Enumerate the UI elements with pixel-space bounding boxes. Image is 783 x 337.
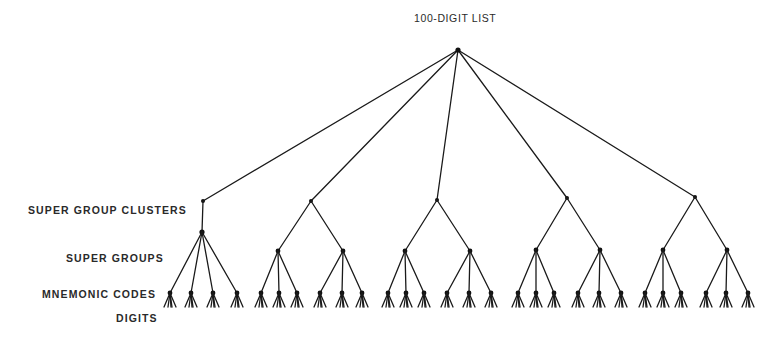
mnemonic-edge <box>343 251 362 293</box>
root-node <box>455 47 460 52</box>
super-group-edge <box>567 198 600 250</box>
mnemonic-edge <box>447 251 470 293</box>
super-group-edge <box>536 198 567 250</box>
cluster-edge <box>458 50 695 197</box>
mnemonic-edge <box>600 250 621 293</box>
mnemonic-edge <box>469 251 470 293</box>
mnemonic-edge <box>170 232 202 293</box>
mnemonic-edge <box>342 251 343 293</box>
super-group-edge <box>405 200 437 251</box>
level-label-digits: DIGITS <box>116 313 158 324</box>
mnemonic-edge <box>278 251 279 293</box>
mnemonic-edge <box>726 250 727 293</box>
mnemonic-edge <box>663 250 681 293</box>
mnemonic-edge <box>727 250 748 293</box>
mnemonic-edge <box>599 250 600 293</box>
mnemonic-edge <box>405 251 406 293</box>
mnemonic-edge <box>278 251 297 293</box>
mnemonic-edge <box>388 251 405 293</box>
mnemonic-edge <box>578 250 600 293</box>
cluster-edge <box>203 50 458 201</box>
super-group-edge <box>311 201 343 251</box>
mnemonic-edge <box>261 251 278 293</box>
cluster-edge <box>437 50 458 200</box>
cluster-edge <box>458 50 567 198</box>
tree-graph <box>0 0 783 337</box>
super-group-edge <box>663 197 695 250</box>
mnemonic-edge <box>470 251 491 293</box>
mnemonic-edge <box>645 250 663 293</box>
level-label-mnemonic-codes: MNEMONIC CODES <box>42 289 156 300</box>
mnemonic-edge <box>405 251 424 293</box>
level-label-super-group-clusters: SUPER GROUP CLUSTERS <box>28 205 187 216</box>
mnemonic-edge <box>518 250 536 293</box>
hierarchy-diagram: 100-DIGIT LIST SUPER GROUP CLUSTERS SUPE… <box>0 0 783 337</box>
mnemonic-edge <box>706 250 727 293</box>
cluster-stem <box>202 201 203 232</box>
super-group-edge <box>278 201 311 251</box>
level-label-super-groups: SUPER GROUPS <box>66 253 164 264</box>
mnemonic-edge <box>320 251 343 293</box>
diagram-title: 100-DIGIT LIST <box>414 13 496 24</box>
mnemonic-edge <box>536 250 554 293</box>
cluster-edge <box>311 50 458 201</box>
super-group-edge <box>437 200 470 251</box>
super-group-edge <box>695 197 727 250</box>
